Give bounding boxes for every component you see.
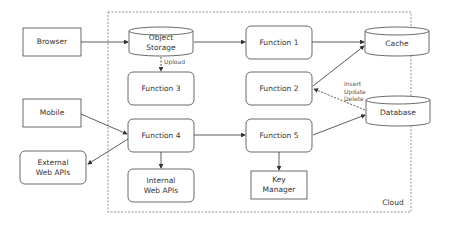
cache-label: Cache [365, 35, 429, 53]
edge-mobile-function4 [81, 114, 127, 134]
insert-update-delete-edge-label: Insert Update Delete [344, 80, 366, 103]
mobile-label: Mobile [23, 99, 81, 127]
object-storage-label: Object Storage [129, 31, 193, 55]
function5-label: Function 5 [246, 119, 312, 152]
function2-label: Function 2 [246, 72, 312, 105]
internal-web-apis-label: Internal Web APIs [128, 169, 194, 202]
external-web-apis-label: External Web APIs [20, 151, 86, 184]
key-manager-label: Key Manager [251, 171, 307, 199]
upload-edge-label: Upload [164, 58, 185, 66]
database-label: Database [366, 104, 430, 122]
browser-label: Browser [23, 28, 81, 56]
cloud-label: Cloud [378, 197, 408, 209]
function1-label: Function 1 [246, 26, 312, 59]
function3-label: Function 3 [128, 72, 194, 105]
edge-function5-database [313, 115, 365, 135]
function4-label: Function 4 [128, 119, 194, 152]
